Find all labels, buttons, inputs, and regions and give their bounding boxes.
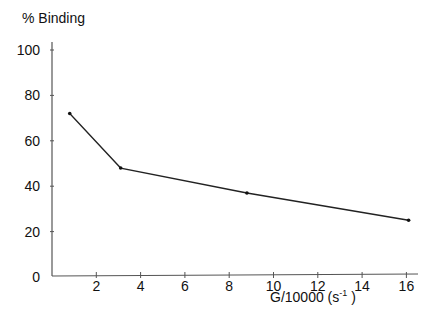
data-point bbox=[119, 166, 123, 170]
y-tick-label: 80 bbox=[24, 87, 40, 103]
data-point bbox=[68, 112, 72, 116]
y-tick-label: 20 bbox=[24, 224, 40, 240]
data-points bbox=[68, 112, 410, 222]
x-tick-label: 4 bbox=[137, 278, 145, 294]
data-point bbox=[245, 191, 249, 195]
y-tick-label: 40 bbox=[24, 178, 40, 194]
x-tick-label: 2 bbox=[92, 278, 100, 294]
y-axis-label: % Binding bbox=[22, 10, 85, 26]
line-chart: % Binding 020406080100 246810121416 G/10… bbox=[0, 0, 429, 316]
x-axis-label: G/10000 (s-1) bbox=[270, 288, 356, 305]
x-tick-label: 16 bbox=[399, 278, 415, 294]
x-tick-label: 8 bbox=[225, 278, 233, 294]
y-tick-label: 100 bbox=[17, 42, 41, 58]
y-tick-label: 0 bbox=[32, 269, 40, 285]
data-point bbox=[407, 218, 411, 222]
y-tick-label: 60 bbox=[24, 133, 40, 149]
x-tick-label: 14 bbox=[354, 278, 370, 294]
x-tick-label: 6 bbox=[181, 278, 189, 294]
y-axis: 020406080100 bbox=[17, 42, 54, 285]
x-axis-line bbox=[52, 274, 418, 276]
